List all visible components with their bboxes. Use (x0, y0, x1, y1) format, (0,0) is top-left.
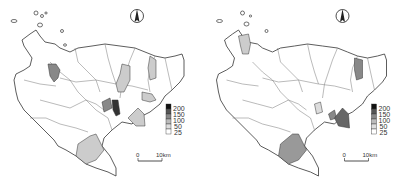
legend: 200 150 100 50 25 (166, 104, 185, 136)
district-shaded-light (148, 56, 156, 80)
scale-bar: 0 10km (136, 152, 171, 161)
north-arrow-icon (336, 9, 349, 23)
legend: 200 150 100 50 25 (372, 104, 391, 136)
left-choropleth-map: 200 150 100 50 25 0 10km (0, 0, 200, 183)
left-map-panel: 200 150 100 50 25 0 10km (0, 0, 200, 183)
scale-start-label: 0 (136, 152, 140, 158)
scale-end-label: 10km (156, 152, 171, 158)
scale-start-label: 0 (343, 152, 347, 158)
legend-tick: 25 (174, 129, 182, 136)
right-map-panel: 200 150 100 50 25 0 10km (200, 0, 400, 183)
islands (217, 11, 269, 33)
scale-bar: 0 10km (343, 152, 378, 161)
legend-tick: 25 (380, 129, 388, 136)
scale-end-label: 10km (363, 152, 378, 158)
right-choropleth-map: 200 150 100 50 25 0 10km (200, 0, 401, 183)
north-arrow-icon (131, 9, 144, 23)
district-shaded-mid (355, 58, 363, 80)
